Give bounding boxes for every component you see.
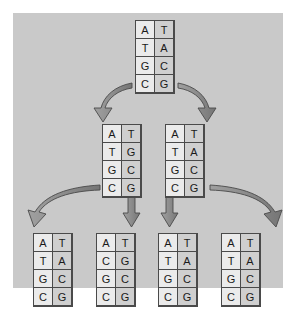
base-cell-right: T (177, 233, 197, 252)
base-pair-row: GC (34, 270, 72, 288)
base-cell-right: A (184, 142, 204, 161)
base-cell-left: C (96, 287, 116, 306)
base-cell-left: C (33, 287, 53, 306)
base-cell-left: G (221, 269, 241, 288)
base-pair-row: AT (136, 21, 174, 39)
base-cell-right: C (52, 269, 72, 288)
base-cell-right: C (240, 269, 260, 288)
base-cell-left: T (158, 251, 178, 270)
dna-strand: ATCGGCCG (96, 233, 136, 307)
base-pair-row: AT (103, 125, 141, 143)
replication-diagram: ATTAGCCGATTGGCCGATTAGCCGATTAGCCGATCGGCCG… (0, 0, 300, 329)
base-cell-left: T (135, 38, 155, 57)
base-cell-right: A (177, 251, 197, 270)
base-pair-row: GC (166, 161, 204, 179)
base-pair-row: GC (222, 270, 260, 288)
base-cell-right: C (115, 269, 135, 288)
base-cell-right: G (115, 251, 135, 270)
base-pair-row: GC (103, 161, 141, 179)
base-pair-row: CG (166, 179, 204, 197)
base-cell-left: A (158, 233, 178, 252)
base-cell-left: T (33, 251, 53, 270)
base-cell-right: G (52, 287, 72, 306)
base-cell-left: G (135, 56, 155, 75)
base-cell-left: A (165, 124, 185, 143)
base-cell-left: A (102, 124, 122, 143)
dna-strand: ATTAGCCG (158, 233, 198, 307)
base-cell-right: G (177, 287, 197, 306)
base-cell-left: C (96, 251, 116, 270)
base-pair-row: AT (97, 234, 135, 252)
base-cell-right: G (121, 178, 141, 197)
base-pair-row: TA (159, 252, 197, 270)
base-cell-right: T (184, 124, 204, 143)
base-pair-row: TA (166, 143, 204, 161)
base-pair-row: TA (222, 252, 260, 270)
base-pair-row: CG (222, 288, 260, 306)
base-cell-left: G (102, 160, 122, 179)
base-pair-row: AT (159, 234, 197, 252)
base-pair-row: CG (97, 252, 135, 270)
dna-strand: ATTAGCCG (165, 124, 205, 198)
base-cell-right: G (240, 287, 260, 306)
base-pair-row: TA (136, 39, 174, 57)
base-cell-left: T (102, 142, 122, 161)
base-cell-left: G (158, 269, 178, 288)
base-cell-right: G (121, 142, 141, 161)
base-pair-row: CG (34, 288, 72, 306)
base-cell-left: C (102, 178, 122, 197)
base-pair-row: CG (103, 179, 141, 197)
base-pair-row: CG (159, 288, 197, 306)
base-cell-right: A (52, 251, 72, 270)
base-pair-row: GC (159, 270, 197, 288)
base-cell-right: G (115, 287, 135, 306)
base-cell-right: C (121, 160, 141, 179)
base-cell-right: G (184, 178, 204, 197)
base-pair-row: AT (34, 234, 72, 252)
base-cell-right: A (240, 251, 260, 270)
base-cell-left: G (96, 269, 116, 288)
dna-strand: ATTAGCCG (33, 233, 73, 307)
base-cell-right: C (177, 269, 197, 288)
base-cell-right: T (52, 233, 72, 252)
base-pair-row: CG (136, 75, 174, 93)
base-cell-right: T (115, 233, 135, 252)
base-cell-right: G (154, 74, 174, 93)
base-cell-right: T (154, 20, 174, 39)
base-cell-right: T (121, 124, 141, 143)
base-pair-row: GC (136, 57, 174, 75)
base-cell-left: T (165, 142, 185, 161)
base-pair-row: AT (222, 234, 260, 252)
base-cell-right: C (154, 56, 174, 75)
base-cell-left: C (221, 287, 241, 306)
base-cell-left: G (33, 269, 53, 288)
dna-strand: ATTAGCCG (221, 233, 261, 307)
base-pair-row: GC (97, 270, 135, 288)
base-cell-left: C (158, 287, 178, 306)
base-cell-left: A (135, 20, 155, 39)
base-cell-left: T (221, 251, 241, 270)
base-pair-row: TA (34, 252, 72, 270)
base-cell-right: C (184, 160, 204, 179)
base-cell-left: C (165, 178, 185, 197)
base-cell-left: A (221, 233, 241, 252)
base-pair-row: TG (103, 143, 141, 161)
base-cell-right: A (154, 38, 174, 57)
base-pair-row: CG (97, 288, 135, 306)
base-cell-left: A (33, 233, 53, 252)
base-cell-left: C (135, 74, 155, 93)
base-cell-right: T (240, 233, 260, 252)
base-cell-left: A (96, 233, 116, 252)
dna-strand: ATTAGCCG (135, 20, 175, 94)
dna-strand: ATTGGCCG (102, 124, 142, 198)
base-cell-left: G (165, 160, 185, 179)
base-pair-row: AT (166, 125, 204, 143)
